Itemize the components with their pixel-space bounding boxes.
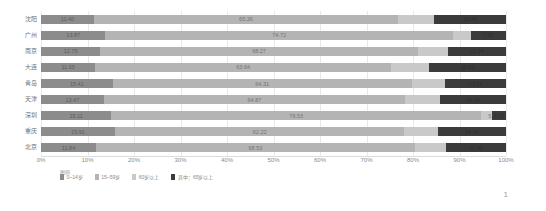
category-label: 深圳: [25, 110, 37, 120]
legend-label: 60岁以上: [139, 174, 160, 180]
segment-value-label: 64.87: [104, 97, 406, 103]
segment-value-label: 15.91: [41, 129, 115, 135]
bar-rows: 沈阳11.4065.3623.2415.40广州13.8774.7211.417…: [41, 11, 506, 156]
category-label: 沈阳: [25, 14, 37, 24]
segment-value-label: 7.58: [471, 32, 506, 38]
bar-segment: 15.11: [41, 111, 111, 120]
bar-segment: 13.47: [41, 95, 104, 104]
grid-line: [506, 11, 507, 156]
legend-label: 15~59岁: [101, 174, 120, 180]
bar-segment: 64.87: [104, 95, 406, 104]
segment-value-label: 16.52: [429, 64, 506, 70]
bar-segment-overlay: 16.52: [429, 63, 506, 72]
bar-segment-overlay: 3.12: [492, 111, 507, 120]
segment-value-label: 65.36: [94, 16, 398, 22]
x-tick-label: 40%: [221, 157, 233, 163]
segment-value-label: 11.84: [41, 145, 96, 151]
segment-value-label: 74.72: [105, 32, 452, 38]
bar-segment-overlay: 7.58: [471, 31, 506, 40]
category-label: 青岛: [25, 78, 37, 88]
legend-swatch: [95, 174, 99, 180]
bar-segment: 15.91: [41, 127, 115, 136]
segment-value-label: 12.75: [41, 48, 100, 54]
legend-label: 其中：65岁以上: [178, 174, 214, 180]
x-tick-label: 80%: [407, 157, 419, 163]
segment-value-label: 3.12: [492, 113, 507, 119]
bar-segment: 79.53: [111, 111, 481, 120]
segment-value-label: 64.31: [113, 81, 412, 87]
bar-row: 天津13.4764.8721.66: [41, 95, 506, 104]
page-number: 1: [504, 190, 508, 199]
bar-segment: 64.31: [113, 79, 412, 88]
legend-item[interactable]: 其中：65岁以上: [171, 174, 213, 180]
category-label: 大连: [25, 62, 37, 72]
bar-segment-overlay: 13.11: [445, 79, 506, 88]
bar-segment: 74.72: [105, 31, 452, 40]
legend: 0~14岁15~59岁60岁以上其中：65岁以上: [60, 174, 225, 180]
x-tick-label: 70%: [360, 157, 372, 163]
bar-segment-overlay: 15.40: [434, 15, 506, 24]
bar-segment-overlay: 12.54: [448, 47, 506, 56]
legend-item[interactable]: 60岁以上: [132, 174, 159, 180]
bar-segment: 68.27: [100, 47, 417, 56]
bar-segment: 62.22: [115, 127, 404, 136]
bar-row: 广州13.8774.7211.41: [41, 31, 506, 40]
bar-segment-overlay: 12.95: [446, 143, 506, 152]
bar-row: 青岛15.4164.3120.28: [41, 79, 506, 88]
bar-segment: 65.36: [94, 15, 398, 24]
x-tick-label: 20%: [128, 157, 140, 163]
segment-value-label: 13.11: [445, 81, 506, 87]
category-label: 天津: [25, 94, 37, 104]
segment-value-label: 15.40: [434, 16, 506, 22]
segment-value-label: 12.54: [448, 48, 506, 54]
segment-value-label: 79.53: [111, 113, 481, 119]
segment-value-label: 13.87: [41, 32, 105, 38]
x-tick-label: 90%: [453, 157, 465, 163]
bar-segment: 12.75: [41, 47, 100, 56]
legend-swatch: [132, 174, 136, 180]
segment-value-label: 11.65: [41, 64, 95, 70]
bar-segment: 11.40: [41, 15, 94, 24]
category-label: 重庆: [25, 126, 37, 136]
bar-row: 北京11.8468.5319.63: [41, 143, 506, 152]
segment-value-label: 62.22: [115, 129, 404, 135]
bar-segment: 13.87: [41, 31, 105, 40]
bar-segment: 11.65: [41, 63, 95, 72]
x-tick-label: 0%: [37, 157, 46, 163]
bar-segment-overlay: 14.66: [438, 127, 506, 136]
stacked-bar-chart: 沈阳11.4065.3623.2415.40广州13.8774.7211.417…: [0, 0, 546, 211]
bar-row: 南京12.7568.2718.98: [41, 47, 506, 56]
segment-value-label: 12.95: [446, 145, 506, 151]
segment-value-label: 15.11: [41, 113, 111, 119]
bar-segment: 15.41: [41, 79, 113, 88]
segment-value-label: 11.40: [41, 16, 94, 22]
bar-segment: 63.64: [95, 63, 391, 72]
legend-swatch: [171, 174, 175, 180]
segment-value-label: 63.64: [95, 64, 391, 70]
category-label: 广州: [25, 30, 37, 40]
legend-item[interactable]: 15~59岁: [95, 174, 121, 180]
x-tick-label: 50%: [267, 157, 279, 163]
segment-value-label: 13.47: [41, 97, 104, 103]
segment-value-label: 68.53: [96, 145, 415, 151]
segment-value-label: 14.66: [438, 129, 506, 135]
bar-segment-overlay: 14.24: [440, 95, 506, 104]
plot-area: 沈阳11.4065.3623.2415.40广州13.8774.7211.417…: [41, 11, 506, 156]
legend-label: 0~14岁: [67, 174, 83, 180]
category-label: 南京: [25, 46, 37, 56]
bar-segment: 11.84: [41, 143, 96, 152]
x-axis-ticks: 0%10%20%30%40%50%60%70%80%90%100%: [41, 157, 506, 169]
x-tick-label: 10%: [81, 157, 93, 163]
segment-value-label: 14.24: [440, 97, 506, 103]
bar-row: 重庆15.9162.2221.87: [41, 127, 506, 136]
bar-row: 深圳15.1179.535.36: [41, 111, 506, 120]
category-label: 北京: [25, 142, 37, 152]
legend-swatch: [60, 174, 64, 180]
x-tick-label: 100%: [498, 157, 513, 163]
segment-value-label: 68.27: [100, 48, 417, 54]
x-tick-label: 30%: [174, 157, 186, 163]
x-tick-label: 60%: [314, 157, 326, 163]
legend-item[interactable]: 0~14岁: [60, 174, 83, 180]
bar-segment: 68.53: [96, 143, 415, 152]
segment-value-label: 15.41: [41, 81, 113, 87]
